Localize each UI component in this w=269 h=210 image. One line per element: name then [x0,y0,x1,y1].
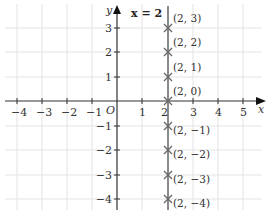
x-tick-label: 5 [240,106,247,119]
x-tick-label: 4 [215,106,222,119]
y-tick-label: 1 [105,71,112,84]
x-tick-label: −2 [61,106,77,119]
point-label: (2, 2) [173,36,201,48]
x-tick-label: 3 [190,106,197,119]
y-tick-label: −3 [96,169,112,182]
x-tick-label: 1 [139,106,146,119]
y-tick-label: −2 [96,144,112,157]
x-tick-label: −3 [36,106,52,119]
line-label: x = 2 [131,7,162,20]
point-label: (2, −1) [173,124,210,136]
y-tick-label: −1 [96,120,112,133]
point-label: (2, −4) [173,197,210,209]
y-tick-label: 2 [105,46,112,59]
coordinate-diagram: −4 −3 −2 −1 1 2 3 4 5 3 2 1 −1 −2 −3 −4 … [0,0,269,210]
point-label: (2, 1) [173,61,201,73]
x-tick-label: −1 [86,106,102,119]
y-tick-label: 3 [105,22,112,35]
y-axis-label: y [105,4,113,17]
point-label: (2, 3) [173,12,201,24]
y-tick-label: −4 [96,193,112,206]
origin-label: O [106,104,115,117]
point-label: (2, 0) [173,85,201,97]
x-tick-label: −4 [11,106,27,119]
x-axis-label: x [258,103,265,116]
point-label: (2, −3) [173,173,210,185]
point-label: (2, −2) [173,148,210,160]
x-tick-label: 2 [161,106,168,119]
y-axis-arrow-icon [113,5,121,14]
